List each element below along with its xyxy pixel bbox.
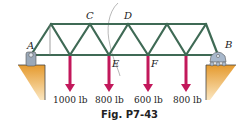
load-label-3: 600 lb — [134, 95, 163, 105]
truss-figure: A C D E F B 1000 lb 800 lb 600 lb 800 lb… — [0, 0, 250, 128]
load-label-2: 800 lb — [95, 95, 124, 105]
joint-label-e: E — [111, 58, 120, 69]
right-ground — [206, 65, 236, 100]
joint-label-f: F — [150, 58, 159, 69]
joint-label-a: A — [26, 40, 34, 51]
load-label-1: 1000 lb — [53, 95, 88, 105]
load-label-4: 800 lb — [173, 95, 202, 105]
figure-caption: Fig. P7-43 — [101, 109, 158, 120]
load-arrows — [65, 56, 191, 92]
joint-label-d: D — [123, 10, 132, 21]
joint-label-b: B — [224, 39, 232, 50]
load-arrow-4 — [181, 56, 191, 92]
left-ground — [18, 65, 45, 100]
joint-label-c: C — [86, 10, 94, 21]
load-arrow-1 — [65, 56, 75, 92]
pin-support-a — [26, 52, 36, 66]
truss-members — [31, 24, 218, 55]
